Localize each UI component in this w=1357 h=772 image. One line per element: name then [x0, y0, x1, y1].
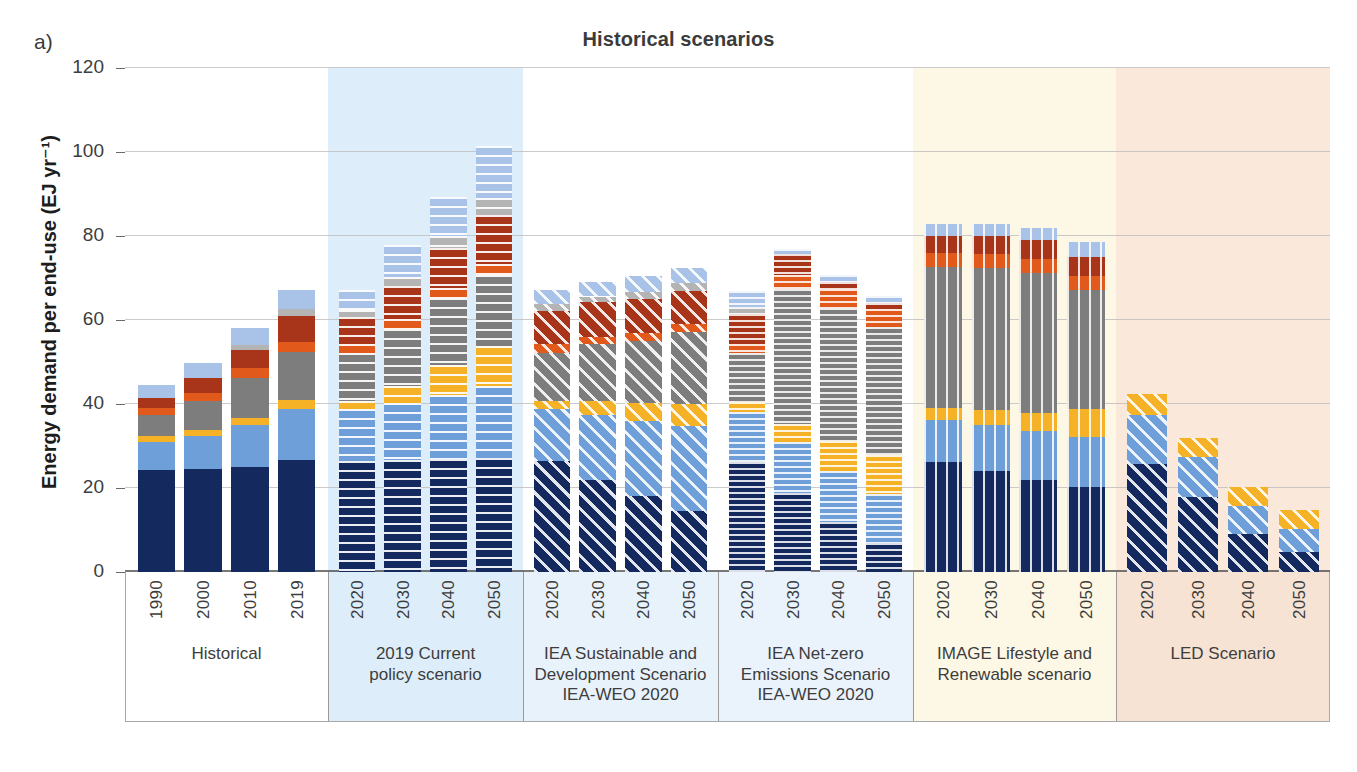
bar-segment-blue — [1228, 506, 1268, 534]
bar-segment-orange — [339, 344, 376, 353]
y-tick-label-100: 100 — [40, 140, 104, 162]
bar-segment-darkred — [278, 316, 315, 342]
y-tick-mark-120 — [116, 68, 125, 69]
bar-segment-blue — [820, 471, 857, 522]
bar-segment-lightgray — [729, 307, 766, 314]
bar-segment-yellow — [972, 410, 1010, 425]
bar-segment-yellow — [1019, 413, 1057, 431]
bar-segment-navy — [924, 462, 962, 572]
bar-segment-blue — [1127, 415, 1167, 463]
bar-segment-blue — [1279, 529, 1319, 552]
bar-segment-darkred — [924, 236, 962, 254]
bar-2-2050[interactable] — [671, 268, 708, 573]
bar-segment-navy — [430, 459, 467, 572]
bar-segment-navy — [339, 461, 376, 572]
bar-segment-yellow — [671, 404, 708, 426]
bar-1-2030[interactable] — [384, 245, 421, 572]
bar-segment-orange — [278, 342, 315, 352]
bar-3-2050[interactable] — [866, 296, 903, 572]
bar-segment-yellow — [729, 402, 766, 411]
bar-segment-navy — [138, 470, 175, 572]
bar-5-2040[interactable] — [1228, 487, 1268, 572]
bar-segment-gray — [774, 289, 811, 424]
bar-4-2050[interactable] — [1067, 242, 1105, 572]
bar-4-2030[interactable] — [972, 224, 1010, 572]
bar-segment-lightblue — [430, 197, 467, 236]
bar-segment-lightblue — [729, 291, 766, 307]
bar-segment-darkred — [625, 299, 662, 334]
x-axis-border — [125, 572, 1330, 722]
bar-segment-yellow — [231, 418, 268, 425]
bar-0-2010[interactable] — [231, 328, 268, 572]
bar-0-2019[interactable] — [278, 290, 315, 572]
y-tick-mark-60 — [116, 320, 125, 321]
bar-segment-orange — [972, 254, 1010, 267]
bar-segment-gray — [384, 329, 421, 386]
y-tick-mark-80 — [116, 236, 125, 237]
y-tick-label-120: 120 — [40, 56, 104, 78]
bar-segment-orange — [138, 408, 175, 415]
bar-segment-navy — [384, 460, 421, 572]
bar-segment-lightgray — [671, 283, 708, 291]
bar-5-2030[interactable] — [1178, 438, 1218, 572]
bar-segment-yellow — [1067, 409, 1105, 438]
bar-segment-blue — [972, 425, 1010, 471]
bar-segment-orange — [1019, 259, 1057, 273]
bar-segment-gray — [1067, 290, 1105, 409]
bar-segment-orange — [774, 275, 811, 288]
y-tick-label-0: 0 — [40, 560, 104, 582]
bar-segment-blue — [476, 386, 513, 457]
bar-segment-navy — [866, 543, 903, 572]
bar-segment-lightgray — [231, 345, 268, 350]
bar-segment-lightgray — [278, 309, 315, 317]
bar-3-2020[interactable] — [729, 291, 766, 572]
bar-segment-lightblue — [476, 146, 513, 198]
bar-segment-gray — [729, 353, 766, 403]
bar-segment-darkred — [534, 311, 571, 345]
bar-2-2040[interactable] — [625, 276, 662, 572]
bar-3-2030[interactable] — [774, 249, 811, 572]
bar-segment-gray — [924, 267, 962, 408]
bar-4-2040[interactable] — [1019, 228, 1057, 572]
bar-segment-lightblue — [534, 290, 571, 305]
bar-segment-lightgray — [625, 292, 662, 299]
bar-segment-gray — [820, 308, 857, 440]
bar-segment-navy — [1228, 534, 1268, 572]
bar-4-2020[interactable] — [924, 224, 962, 572]
bar-segment-navy — [1019, 480, 1057, 572]
gridline-80 — [125, 235, 1330, 236]
bar-3-2040[interactable] — [820, 275, 857, 572]
bar-5-2020[interactable] — [1127, 394, 1167, 573]
bar-1-2040[interactable] — [430, 197, 467, 572]
plot-area — [125, 68, 1330, 572]
bar-segment-navy — [1178, 497, 1218, 572]
bar-segment-darkred — [476, 215, 513, 265]
bar-segment-lightblue — [278, 290, 315, 309]
bar-2-2030[interactable] — [579, 282, 616, 572]
bar-segment-darkred — [671, 291, 708, 324]
bar-5-2050[interactable] — [1279, 510, 1319, 572]
bar-0-1990[interactable] — [138, 385, 175, 572]
bar-segment-navy — [1279, 552, 1319, 572]
bar-segment-orange — [231, 368, 268, 378]
bar-segment-yellow — [138, 436, 175, 441]
bar-segment-blue — [534, 409, 571, 460]
bar-segment-darkred — [384, 286, 421, 320]
bar-segment-blue — [774, 442, 811, 493]
bar-0-2000[interactable] — [184, 363, 221, 572]
bar-segment-yellow — [1279, 510, 1319, 529]
bar-segment-orange — [384, 319, 421, 329]
bar-1-2020[interactable] — [339, 290, 376, 572]
bar-segment-navy — [774, 493, 811, 572]
bar-segment-navy — [579, 480, 616, 572]
gridline-120 — [125, 67, 1330, 68]
bar-segment-darkred — [972, 236, 1010, 254]
bar-segment-gray — [1019, 273, 1057, 414]
bar-segment-lightgray — [430, 236, 467, 247]
y-tick-label-20: 20 — [40, 476, 104, 498]
bar-segment-gray — [278, 352, 315, 400]
bar-1-2050[interactable] — [476, 146, 513, 572]
bar-segment-gray — [534, 353, 571, 401]
bar-segment-blue — [231, 425, 268, 467]
bar-2-2020[interactable] — [534, 290, 571, 572]
